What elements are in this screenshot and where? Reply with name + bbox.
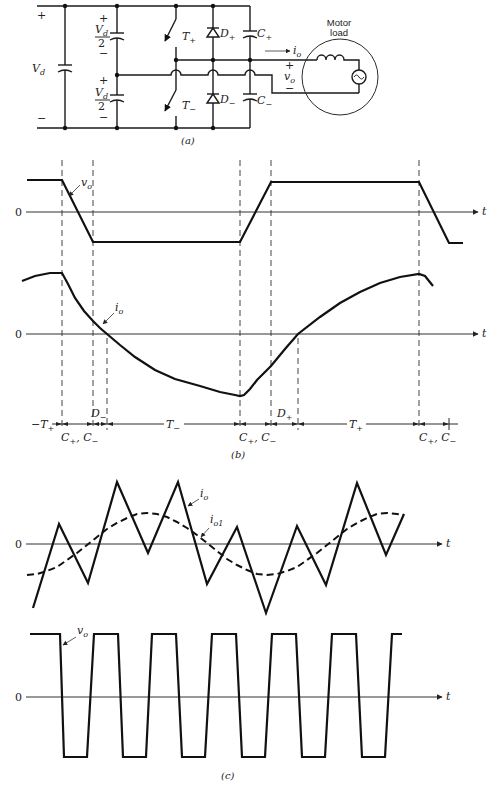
c-voltage-label: vo <box>77 624 88 639</box>
lower-snubber-cap-label: C− <box>257 94 272 109</box>
c-current-axis-t-label: t <box>446 537 451 550</box>
junction-dots <box>63 4 252 130</box>
part-b-caption: (b) <box>231 449 245 460</box>
b-voltage-label: vo <box>81 176 92 191</box>
interval-guides <box>62 160 419 430</box>
upper-diode-label: D+ <box>219 27 236 42</box>
lower-cap-minus-sign: − <box>99 111 108 124</box>
b-current-zero-label: 0 <box>15 328 22 341</box>
b-voltage-axis-t-label: t <box>482 205 487 218</box>
c-current-zero-label: 0 <box>15 538 22 551</box>
c-voltage-leader <box>63 637 76 645</box>
b-voltage-leader <box>69 185 80 196</box>
c-fundamental-leader <box>201 528 209 537</box>
c-current-label: io <box>200 487 209 502</box>
switch-leg <box>165 6 176 128</box>
interval-label-commutation-2: C+, C− <box>239 431 276 446</box>
circuit-schematic: + Vd − + Vd 2 − + Vd 2 − <box>32 4 378 146</box>
dc-source-voltage-label: Vd <box>32 62 45 77</box>
lower-switch-icon <box>165 90 176 111</box>
upper-cap-numerator: Vd <box>95 23 108 38</box>
c-output-current-waveform <box>33 482 404 613</box>
lower-cap-numerator: Vd <box>95 86 108 101</box>
lower-diode-label: D− <box>219 93 236 108</box>
motor-load-title-line2: load <box>330 27 348 38</box>
b-current-leader <box>103 313 114 324</box>
interval-label-d-minus: D− <box>90 407 107 422</box>
c-fundamental-label: io1 <box>210 513 223 528</box>
output-voltage-minus: − <box>285 82 294 95</box>
c-voltage-axis-t-label: t <box>446 690 451 703</box>
split-capacitors <box>110 6 124 128</box>
dc-source-minus-sign: − <box>37 112 46 125</box>
lower-switch-label: T− <box>182 99 196 114</box>
lower-diode-icon <box>207 94 219 103</box>
part-c-waveforms: 0 t io io1 0 t vo (c) <box>15 482 451 781</box>
part-b-waveforms: 0 t vo 0 t io −T+ C+, C− D− T− C+, C− D+… <box>15 160 487 460</box>
interval-dimension-line <box>52 418 458 430</box>
b-current-label: io <box>115 301 124 316</box>
b-current-axis-t-label: t <box>482 327 487 340</box>
part-c-caption: (c) <box>221 770 235 781</box>
c-voltage-zero-label: 0 <box>15 691 22 704</box>
midpoint-return-wire <box>117 70 359 93</box>
inverter-figure: + Vd − + Vd 2 − + Vd 2 − <box>0 0 497 789</box>
interval-label-t-plus: T+ <box>349 418 363 433</box>
c-output-voltage-waveform <box>30 634 402 757</box>
interval-label-d-plus: D+ <box>276 407 293 422</box>
inductor-icon <box>317 55 359 70</box>
upper-switch-icon <box>165 19 176 41</box>
diode-leg <box>207 6 219 128</box>
dc-source-plus-sign: + <box>37 9 46 22</box>
upper-switch-label: T+ <box>182 30 196 45</box>
interval-label-commutation-1: C+, C− <box>61 431 98 446</box>
b-voltage-zero-label: 0 <box>15 206 22 219</box>
upper-cap-minus-sign: − <box>99 47 108 60</box>
part-a-caption: (a) <box>181 135 195 146</box>
interval-label-commutation-3: C+, C− <box>419 431 456 446</box>
upper-snubber-cap-label: C+ <box>257 27 272 42</box>
c-current-leader <box>188 499 199 506</box>
dc-link-capacitor <box>58 6 72 128</box>
snubber-capacitor-leg <box>243 6 257 128</box>
interval-label-neg-t-plus: −T+ <box>31 418 54 433</box>
upper-diode-icon <box>207 28 219 37</box>
output-current-label: io <box>293 44 302 59</box>
interval-label-t-minus: T− <box>166 418 180 433</box>
